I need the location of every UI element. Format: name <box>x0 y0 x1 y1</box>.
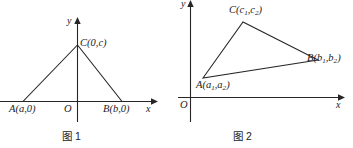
fig1-origin-label: O <box>64 104 72 115</box>
fig2-point-c-end: ) <box>259 4 263 15</box>
diagram-vector-layer <box>0 0 353 148</box>
fig2-x-axis-label: x <box>336 100 340 110</box>
fig2-point-b-label: B(b1,b2) <box>307 53 341 65</box>
fig2-point-a-text: A(a <box>196 79 211 90</box>
fig2-caption: 图 2 <box>233 131 252 142</box>
fig1-triangle-abc <box>23 45 122 102</box>
fig1-x-axis-label: x <box>146 104 150 114</box>
fig2-point-b-end: ) <box>337 52 341 63</box>
fig2-y-axis-label: y <box>181 0 185 9</box>
fig1-caption: 图 1 <box>62 131 81 142</box>
fig1-point-b-label: B(b,0) <box>103 104 130 115</box>
fig2-point-a-end: ) <box>226 79 230 90</box>
fig2-point-c-mid: ,c <box>248 4 255 15</box>
fig2-point-a-mid: ,a <box>215 79 223 90</box>
fig2-point-c-label: C(c1,c2) <box>229 5 262 17</box>
fig1-x-axis-arrowhead <box>151 98 158 104</box>
fig1-point-c-label: C(0,c) <box>80 38 107 49</box>
fig2-point-a-label: A(a1,a2) <box>196 80 230 92</box>
fig2-point-b-text: B(b <box>307 52 322 63</box>
fig2-point-c-text: C(c <box>229 4 244 15</box>
fig2-triangle-abc <box>203 22 318 78</box>
fig2-point-b-mid: ,b <box>326 52 334 63</box>
fig1-y-axis-arrowhead <box>74 17 80 24</box>
fig2-origin-label: O <box>180 100 188 111</box>
figure-canvas: y C(0,c) A(a,0) O B(b,0) x 图 1 y C(c1,c2… <box>0 0 353 148</box>
fig2-y-axis-arrowhead <box>187 0 193 7</box>
fig1-point-a-label: A(a,0) <box>9 104 36 115</box>
fig1-y-axis-label: y <box>67 16 71 26</box>
